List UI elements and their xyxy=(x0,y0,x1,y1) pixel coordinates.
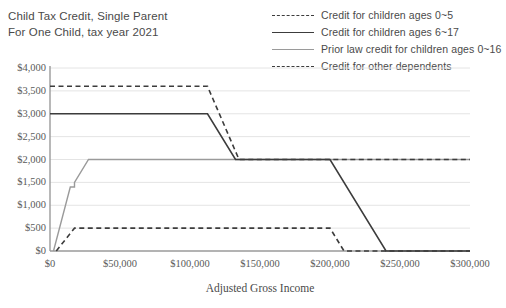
x-tick-label: $100,000 xyxy=(150,258,230,269)
x-tick-label: $150,000 xyxy=(220,258,300,269)
series-line xyxy=(50,86,470,159)
x-tick-label: $50,000 xyxy=(80,258,160,269)
x-tick-label: $300,000 xyxy=(430,258,506,269)
x-tick-label: $250,000 xyxy=(360,258,440,269)
x-tick-label: $200,000 xyxy=(290,258,370,269)
plot-area xyxy=(50,68,470,251)
x-tick-label: $0 xyxy=(10,258,90,269)
series-line xyxy=(56,228,470,251)
x-axis-label: Adjusted Gross Income xyxy=(50,282,470,294)
plot-svg xyxy=(50,68,470,251)
